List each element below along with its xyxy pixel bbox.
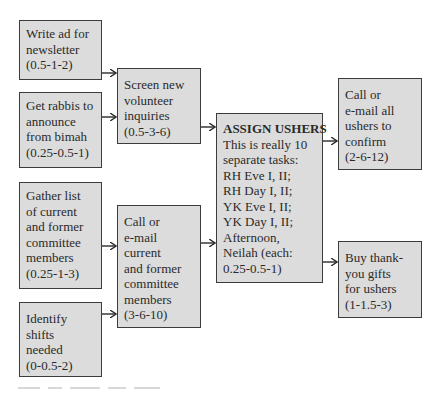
node-estimate: (3-6-10) <box>124 307 195 323</box>
node-assign-ushers: ASSIGN USHERS This is really 10 separate… <box>216 113 323 283</box>
node-text: confirm <box>345 134 416 150</box>
node-text: you gifts <box>345 266 416 282</box>
node-text: RH Day I, II; <box>223 183 317 199</box>
node-text: from bimah <box>26 129 96 145</box>
node-estimate: (2-6-12) <box>345 149 416 165</box>
node-text: Afternoon, <box>223 230 317 246</box>
node-text: Get rabbis to <box>26 98 96 114</box>
node-estimate: (1-1.5-3) <box>345 297 416 313</box>
node-text: for ushers <box>345 281 416 297</box>
node-text: committee <box>124 276 195 292</box>
node-identify-shifts: Identify shifts needed (0-0.5-2) <box>19 302 102 377</box>
cropped-caption <box>18 387 218 393</box>
node-text: and former <box>26 219 96 235</box>
node-text: ushers to <box>345 118 416 134</box>
node-text: shifts <box>26 327 96 343</box>
node-text: RH Eve I, II; <box>223 168 317 184</box>
node-get-rabbis: Get rabbis to announce from bimah (0.25-… <box>19 92 102 168</box>
node-buy-gifts: Buy thank- you gifts for ushers (1-1.5-3… <box>338 241 422 318</box>
node-text: YK Day I, II; <box>223 214 317 230</box>
node-text: members <box>124 292 195 308</box>
node-text: Call or <box>345 87 416 103</box>
node-text: members <box>26 250 96 266</box>
node-text: inquiries <box>124 108 195 124</box>
node-text: current <box>124 245 195 261</box>
node-confirm-ushers: Call or e-mail all ushers to confirm (2-… <box>338 78 422 170</box>
node-screen-volunteers: Screen new volunteer inquiries (0.5-3-6) <box>117 68 201 144</box>
node-write-ad: Write ad for newsletter (0.5-1-2) <box>19 20 102 80</box>
node-text: Call or <box>124 214 195 230</box>
node-text: Gather list <box>26 188 96 204</box>
node-text: newsletter <box>26 42 96 58</box>
node-text: This is really 10 <box>223 137 317 153</box>
node-text: announce <box>26 114 96 130</box>
node-text: Buy thank- <box>345 250 416 266</box>
node-estimate: (0.5-3-6) <box>124 124 195 140</box>
node-estimate: 0.25-0.5-1) <box>223 261 317 277</box>
node-estimate: (0.25-0.5-1) <box>26 145 96 161</box>
node-text: Screen new <box>124 77 195 93</box>
node-estimate: (0-0.5-2) <box>26 358 96 374</box>
node-call-committee: Call or e-mail current and former commit… <box>117 205 201 328</box>
node-estimate: (0.25-1-3) <box>26 266 96 282</box>
node-text: e-mail <box>124 230 195 246</box>
node-text: committee <box>26 235 96 251</box>
node-text: and former <box>124 261 195 277</box>
node-text: of current <box>26 204 96 220</box>
node-text: Write ad for <box>26 26 96 42</box>
node-text: e-mail all <box>345 103 416 119</box>
node-estimate: (0.5-1-2) <box>26 57 96 73</box>
node-gather-list: Gather list of current and former commit… <box>19 182 102 289</box>
node-text: volunteer <box>124 93 195 109</box>
node-text: YK Eve I, II; <box>223 199 317 215</box>
node-text: separate tasks: <box>223 152 317 168</box>
node-title: ASSIGN USHERS <box>223 121 317 137</box>
node-text: Identify <box>26 311 96 327</box>
node-text: needed <box>26 342 96 358</box>
node-text: Neilah (each: <box>223 245 317 261</box>
